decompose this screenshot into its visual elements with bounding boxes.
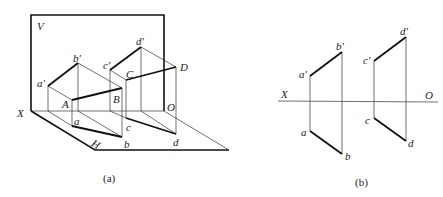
label-d-b: d [408,137,414,149]
line-c-prime-d-prime [110,47,141,70]
label-a-prime: a' [37,77,46,89]
v-plane [31,15,164,111]
line-a-prime-b-prime [48,63,78,86]
label-a: a [74,115,80,127]
label-O-a: O [167,101,175,113]
label-b-b: b [345,150,351,162]
label-B: B [113,93,120,105]
label-C: C [126,68,134,80]
caption-a: (a) [103,172,116,185]
label-X-a: X [16,107,25,119]
label-d-prime: d' [136,35,145,47]
label-d-prime-b: d' [400,25,409,37]
label-d: d [173,136,179,148]
line-c-prime-d-prime-b [374,37,406,61]
label-c-b: c [365,114,370,126]
line-CD [126,67,176,80]
line-ab [72,126,122,137]
label-c: c [126,121,131,133]
label-V: V [37,20,45,32]
label-b-prime-b: b' [336,40,345,52]
figure-a-pictorial: V H X O a' b' c' d' A B C D a b c d (a) [16,15,229,185]
label-c-prime-b: c' [363,54,371,66]
label-D: D [179,61,188,73]
caption-b: (b) [355,176,368,189]
label-A: A [61,98,69,110]
label-b: b [124,138,130,150]
line-cd-b [374,118,406,141]
label-c-prime: c' [103,59,111,71]
projection-figure: V H X O a' b' c' d' A B C D a b c d (a) … [0,0,443,197]
line-cd [126,118,176,134]
label-O-b: O [425,89,433,101]
x-axis-b [278,101,438,102]
figure-b-orthographic: X O a' b' c' d' a b c d (b) [278,25,438,189]
line-a-prime-b-prime-b [310,52,342,76]
label-a-prime-b: a' [299,68,308,80]
label-X-b: X [280,88,289,100]
label-a-b: a [301,126,307,138]
line-ab-b [310,131,342,154]
label-b-prime: b' [73,52,82,64]
